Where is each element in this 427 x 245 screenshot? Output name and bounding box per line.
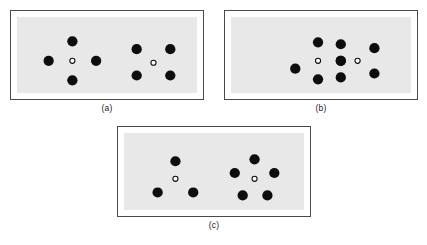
filled-dot	[67, 36, 77, 46]
panel-b	[224, 10, 418, 100]
open-circle-center	[70, 58, 75, 63]
filled-dot	[313, 74, 323, 84]
filled-dot	[132, 44, 142, 54]
dot-group-x-configuration	[132, 44, 176, 80]
open-circle-center	[355, 58, 360, 63]
open-circle-center	[151, 60, 156, 65]
panel-a-plate	[17, 17, 197, 93]
filled-dot	[170, 156, 180, 166]
filled-dot	[336, 39, 346, 49]
panel-c	[117, 126, 311, 217]
filled-dot	[165, 44, 175, 54]
panel-c-plate	[124, 133, 304, 210]
filled-dot	[230, 168, 240, 178]
panel-b-caption: (b)	[224, 103, 418, 113]
filled-dot	[336, 56, 346, 66]
filled-dot	[313, 37, 323, 47]
panel-a	[10, 10, 204, 100]
figure-root: (a) (b) (c)	[0, 0, 427, 245]
dot-group-pentagon-configuration	[230, 154, 280, 200]
panel-c-caption: (c)	[117, 220, 311, 230]
filled-dot	[249, 154, 259, 164]
filled-dot	[165, 70, 175, 80]
filled-dot	[152, 187, 162, 197]
filled-dot	[238, 190, 248, 200]
panel-b-dots	[231, 17, 411, 93]
filled-dot	[262, 190, 272, 200]
open-circle-center	[252, 176, 257, 181]
filled-dot	[369, 43, 379, 53]
dot-group-triangle-configuration	[152, 156, 198, 197]
open-circle-center	[173, 176, 178, 181]
filled-dot	[67, 75, 77, 85]
filled-dot	[44, 56, 54, 66]
panel-c-dots	[124, 133, 304, 210]
panel-a-dots	[17, 17, 197, 93]
panel-b-plate	[231, 17, 411, 93]
panel-a-caption: (a)	[10, 103, 204, 113]
filled-dot	[188, 187, 198, 197]
filled-dot	[91, 56, 101, 66]
filled-dot	[336, 72, 346, 82]
filled-dot	[290, 64, 300, 74]
filled-dot	[369, 68, 379, 78]
filled-dot	[132, 70, 142, 80]
dot-group-shared-center-dot	[336, 56, 346, 66]
dot-group-plus-configuration	[44, 36, 102, 85]
open-circle-center	[315, 58, 320, 63]
filled-dot	[269, 168, 279, 178]
